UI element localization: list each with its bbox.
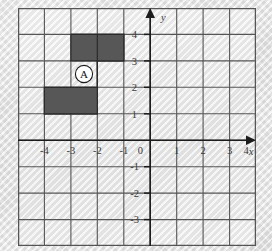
axes — [18, 8, 256, 246]
y-tick-label-neg2: -2 — [130, 188, 139, 199]
y-tick-label-neg3: -3 — [130, 214, 139, 225]
badge-letter: A — [80, 68, 88, 80]
x-tick-label-neg4: -4 — [40, 145, 49, 156]
x-tick-label-2: 2 — [200, 145, 205, 156]
y-axis-label: y — [160, 12, 166, 23]
y-tick-label-neg1: -1 — [130, 161, 139, 172]
x-tick-label-neg3: -3 — [67, 145, 76, 156]
origin-label: 0 — [138, 145, 143, 156]
x-tick-label-3: 3 — [227, 145, 232, 156]
y-tick-label-4: 4 — [132, 29, 138, 40]
y-tick-label-2: 2 — [132, 82, 137, 93]
coordinate-plane-svg: 4 3 2 1 -1 -2 -3 0 -4 -3 -2 -1 1 2 3 4 y… — [18, 8, 256, 246]
x-axis-arrowhead — [246, 135, 256, 145]
grid-lines — [18, 8, 256, 246]
x-axis-label: x — [248, 146, 254, 157]
x-tick-label-neg2: -2 — [93, 145, 102, 156]
y-axis-arrowhead — [145, 8, 155, 18]
y-tick-label-3: 3 — [132, 56, 137, 67]
y-tick-label-1: 1 — [132, 109, 137, 120]
coordinate-grid-figure: 4 3 2 1 -1 -2 -3 0 -4 -3 -2 -1 1 2 3 4 y… — [18, 8, 256, 246]
y-axis-tickmarks — [144, 34, 150, 219]
region-label-badge-a: A — [75, 65, 92, 82]
x-tick-label-1: 1 — [174, 145, 179, 156]
x-tick-label-neg1: -1 — [119, 145, 128, 156]
